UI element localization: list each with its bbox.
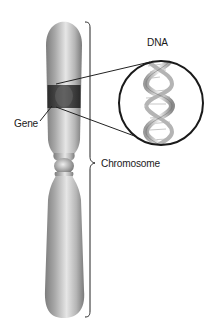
gene-label: Gene [14,117,38,129]
dna-magnified-circle [119,56,203,156]
centromere [53,153,74,177]
chromosome-label: Chromosome [101,157,160,169]
chromosome-lower-arm [45,176,84,318]
chromosome-bracket [85,22,95,317]
gene-band [48,85,81,108]
dna-label: DNA [147,36,168,48]
